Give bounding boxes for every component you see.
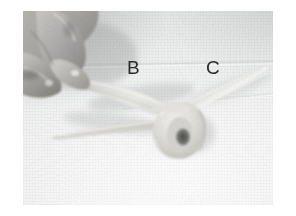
annotation-label-b: B	[127, 58, 140, 77]
annotation-label-c: C	[206, 58, 220, 77]
photograph: B C	[23, 11, 273, 205]
figure-page: B C	[0, 0, 296, 216]
photo-subject	[23, 11, 273, 205]
